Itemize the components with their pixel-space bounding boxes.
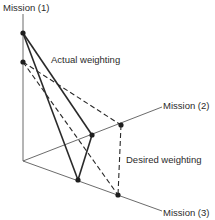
label-mission-2: Mission (2) bbox=[163, 100, 209, 111]
desired-point-m1 bbox=[20, 59, 25, 64]
label-mission-3: Mission (3) bbox=[163, 207, 209, 218]
label-desired-weighting: Desired weighting bbox=[126, 154, 202, 165]
actual-point-m1 bbox=[20, 30, 25, 35]
label-actual-weighting: Actual weighting bbox=[51, 54, 120, 65]
actual-point-m3 bbox=[75, 177, 80, 182]
actual-point-m2 bbox=[89, 132, 94, 137]
desired-point-m3 bbox=[115, 192, 120, 197]
mission-weighting-diagram: Mission (1) Mission (2) Mission (3) Actu… bbox=[0, 0, 215, 220]
desired-point-m2 bbox=[118, 122, 123, 127]
desired-weighting-triangle bbox=[20, 59, 123, 197]
label-mission-1: Mission (1) bbox=[3, 2, 49, 13]
axis-mission-3 bbox=[23, 161, 162, 211]
